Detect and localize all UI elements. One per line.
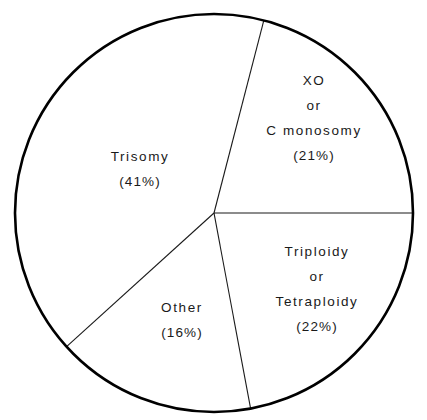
slice-label-trisomy: Trisomy (41%): [111, 144, 170, 194]
slice-label-xo-percent: (21%): [266, 143, 362, 168]
slice-label-triploidy: Triploidy or Tetraploidy (22%): [276, 239, 359, 339]
slice-label-xo-line3: C monosomy: [266, 118, 362, 143]
slice-label-trisomy-line1: Trisomy: [111, 144, 170, 169]
slice-label-xo: XO or C monosomy (21%): [266, 68, 362, 168]
slice-label-trisomy-percent: (41%): [111, 169, 170, 194]
slice-label-other-line1: Other: [161, 295, 203, 320]
slice-label-xo-line1: XO: [266, 68, 362, 93]
slice-label-other-percent: (16%): [161, 320, 203, 345]
pie-chart-figure: XO or C monosomy (21%) Triploidy or Tetr…: [0, 0, 427, 420]
slice-label-triploidy-line1: Triploidy: [276, 239, 359, 264]
pie-chart-graphic: [0, 0, 427, 420]
slice-label-other: Other (16%): [161, 295, 203, 345]
slice-label-xo-line2: or: [266, 93, 362, 118]
slice-label-triploidy-line3: Tetraploidy: [276, 289, 359, 314]
slice-label-triploidy-line2: or: [276, 264, 359, 289]
slice-label-triploidy-percent: (22%): [276, 314, 359, 339]
